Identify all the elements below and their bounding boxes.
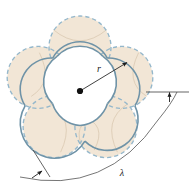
wavelength-label: λ xyxy=(119,167,125,178)
center-dot xyxy=(77,88,83,94)
figure-container: r λ xyxy=(0,0,189,193)
rosette-diagram: r λ xyxy=(0,0,189,193)
radius-label: r xyxy=(97,63,101,74)
